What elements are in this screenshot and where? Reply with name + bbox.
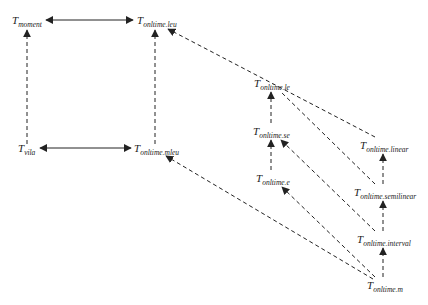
node-onltime-e: Tonltime.e — [256, 172, 290, 186]
edge-semilinear-le-diag — [281, 92, 375, 184]
node-onltime-mleu: Tonltime.mleu — [134, 142, 179, 156]
node-onltime-le: Tonltime.le — [254, 77, 290, 91]
node-moment: Tmoment — [12, 14, 42, 28]
node-onltime-semilinear: Tonltime.semilinear — [354, 186, 416, 200]
node-subscript: moment — [18, 20, 42, 29]
node-subscript: onltime.interval — [363, 239, 411, 248]
node-subscript: onltime.mleu — [140, 148, 179, 157]
node-onltime-linear: Tonltime.linear — [360, 139, 408, 153]
node-onltime-se: Tonltime.se — [253, 125, 290, 139]
node-subscript: vila — [24, 148, 35, 157]
node-onltime-m: Tonltime.m — [367, 279, 403, 293]
node-subscript: onltime.m — [373, 285, 403, 294]
node-subscript: onltime.linear — [366, 145, 408, 154]
node-onltime-interval: Tonltime.interval — [357, 233, 411, 247]
node-vila: Tvila — [18, 142, 35, 156]
node-subscript: onltime.leu — [143, 20, 177, 29]
node-subscript: onltime.se — [259, 131, 290, 140]
node-subscript: onltime.semilinear — [360, 192, 416, 201]
hierarchy-diagram: Tmoment Tonltime.leu Tvila Tonltime.mleu… — [0, 0, 428, 305]
node-onltime-leu: Tonltime.leu — [137, 14, 177, 28]
node-subscript: onltime.e — [262, 178, 290, 187]
node-subscript: onltime.le — [260, 83, 290, 92]
